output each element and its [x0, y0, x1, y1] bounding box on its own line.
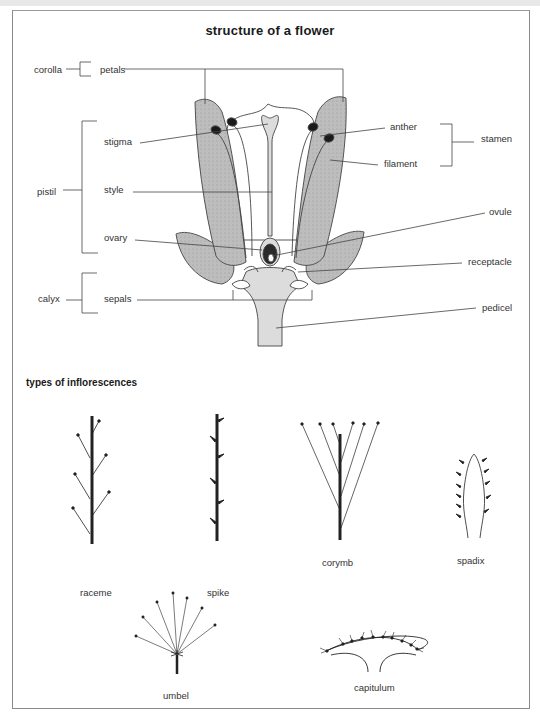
corymb-icon: [301, 422, 380, 540]
capitulum-icon: [320, 630, 430, 672]
spike-icon: [210, 414, 224, 541]
diagram-canvas: [0, 0, 540, 714]
raceme-icon: [72, 416, 111, 544]
ovule-icon: [268, 254, 274, 262]
receptacle-pedicel-icon: [240, 268, 300, 347]
spadix-icon: [456, 454, 491, 538]
umbel-icon: [135, 592, 216, 674]
